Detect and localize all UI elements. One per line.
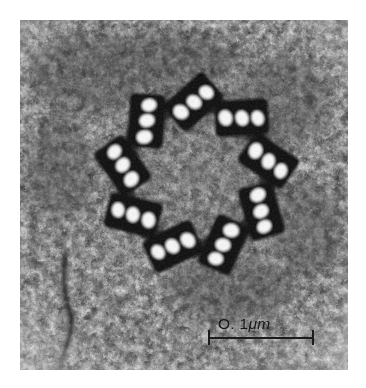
micrograph-canvas: [20, 20, 348, 370]
electron-micrograph-image: [20, 20, 348, 370]
plate-vignette: [20, 20, 348, 370]
micrograph-page: O. 1μm: [0, 0, 366, 388]
